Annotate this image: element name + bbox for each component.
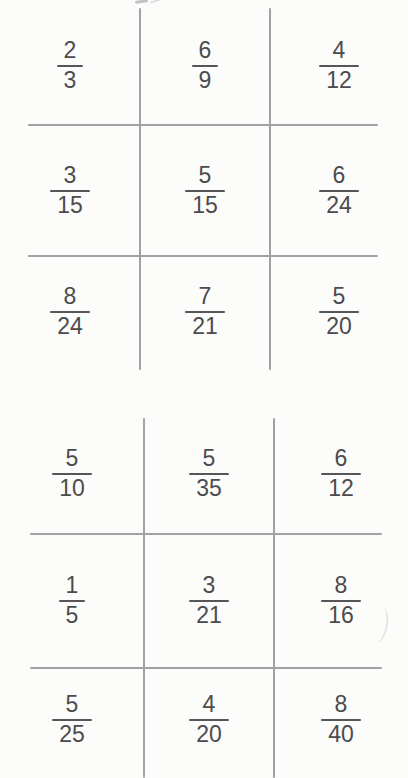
fraction-numerator: 4	[331, 38, 348, 63]
fraction-cell: 6 24	[270, 125, 408, 256]
fraction: 5 25	[57, 692, 87, 747]
fraction-cell: 6 12	[274, 414, 408, 533]
fraction-numerator: 8	[333, 692, 350, 717]
fraction-denominator: 12	[326, 476, 356, 501]
fraction-denominator: 9	[197, 68, 214, 93]
fraction-cell: 5 35	[144, 414, 274, 533]
fraction-grid-1: 2 3 6 9 4 12	[0, 0, 408, 388]
fraction-numerator: 3	[62, 163, 79, 188]
fraction-numerator: 4	[201, 692, 218, 717]
fraction-denominator: 25	[57, 722, 87, 747]
fraction-cell: 6 9	[140, 6, 270, 125]
fraction-numerator: 2	[62, 38, 79, 63]
fraction: 7 21	[190, 284, 220, 339]
fraction-numerator: 8	[333, 573, 350, 598]
fraction: 3 21	[194, 573, 224, 628]
fraction: 4 12	[324, 38, 354, 93]
fraction: 5 35	[194, 446, 224, 501]
fraction: 6 12	[326, 446, 356, 501]
fraction-cell: 8 40	[274, 667, 408, 771]
fraction: 5 10	[57, 446, 87, 501]
grid2-cells: 5 10 5 35 6 12	[0, 414, 408, 771]
fraction-cell: 7 21	[140, 256, 270, 366]
worksheet-page: 2 3 6 9 4 12	[0, 0, 408, 778]
fraction: 5 20	[324, 284, 354, 339]
fraction-denominator: 20	[194, 722, 224, 747]
fraction-grid-2: 5 10 5 35 6 12	[0, 388, 408, 778]
fraction-numerator: 8	[62, 284, 79, 309]
fraction-cell: 5 20	[270, 256, 408, 366]
fraction-cell: 8 16	[274, 533, 408, 667]
fraction-denominator: 24	[324, 193, 354, 218]
fraction-denominator: 15	[55, 193, 85, 218]
fraction: 2 3	[62, 38, 79, 93]
fraction-denominator: 24	[55, 314, 85, 339]
fraction: 3 15	[55, 163, 85, 218]
fraction-cell: 5 15	[140, 125, 270, 256]
fraction: 6 9	[197, 38, 214, 93]
fraction: 8 16	[326, 573, 356, 628]
fraction-numerator: 7	[197, 284, 214, 309]
fraction: 8 40	[326, 692, 356, 747]
fraction: 1 5	[64, 573, 81, 628]
fraction-cell: 5 25	[0, 667, 144, 771]
fraction-denominator: 10	[57, 476, 87, 501]
fraction-cell: 1 5	[0, 533, 144, 667]
fraction-cell: 3 21	[144, 533, 274, 667]
fraction-denominator: 21	[194, 603, 224, 628]
fraction-denominator: 12	[324, 68, 354, 93]
fraction-denominator: 5	[64, 603, 81, 628]
fraction: 6 24	[324, 163, 354, 218]
fraction-numerator: 5	[64, 692, 81, 717]
fraction-numerator: 6	[331, 163, 348, 188]
fraction-denominator: 15	[190, 193, 220, 218]
fraction-cell: 8 24	[0, 256, 140, 366]
fraction-denominator: 3	[62, 68, 79, 93]
fraction-numerator: 6	[197, 38, 214, 63]
fraction-cell: 2 3	[0, 6, 140, 125]
fraction-denominator: 16	[326, 603, 356, 628]
fraction-denominator: 40	[326, 722, 356, 747]
fraction-denominator: 21	[190, 314, 220, 339]
fraction: 4 20	[194, 692, 224, 747]
fraction: 8 24	[55, 284, 85, 339]
fraction-cell: 5 10	[0, 414, 144, 533]
fraction-cell: 3 15	[0, 125, 140, 256]
fraction-denominator: 20	[324, 314, 354, 339]
fraction-numerator: 5	[201, 446, 218, 471]
fraction-denominator: 35	[194, 476, 224, 501]
fraction-numerator: 5	[64, 446, 81, 471]
fraction-cell: 4 20	[144, 667, 274, 771]
grid1-cells: 2 3 6 9 4 12	[0, 6, 408, 366]
fraction-numerator: 5	[331, 284, 348, 309]
fraction-cell: 4 12	[270, 6, 408, 125]
fraction-numerator: 5	[197, 163, 214, 188]
fraction-numerator: 6	[333, 446, 350, 471]
fraction-numerator: 3	[201, 573, 218, 598]
fraction: 5 15	[190, 163, 220, 218]
fraction-numerator: 1	[64, 573, 81, 598]
